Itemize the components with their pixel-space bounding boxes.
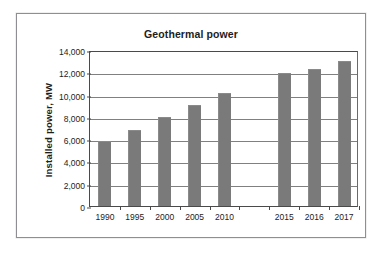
x-tick-mark: [150, 206, 151, 210]
y-tick-mark: [87, 185, 91, 186]
y-tick-mark: [87, 74, 91, 75]
y-tick-label: 12,000: [59, 69, 85, 79]
x-tick-mark: [299, 206, 300, 210]
bar: [278, 73, 291, 206]
y-tick-mark: [87, 96, 91, 97]
x-tick-label: 2000: [155, 212, 174, 222]
y-tick-label: 6,000: [64, 136, 85, 146]
x-tick-label: 1990: [95, 212, 114, 222]
plot-area: 02,0004,0006,0008,00010,00012,00014,000 …: [89, 51, 358, 207]
y-axis-title: Installed power, MW: [43, 60, 57, 200]
x-tick-mark: [210, 206, 211, 210]
y-tick-mark: [87, 208, 91, 209]
x-tick-mark: [180, 206, 181, 210]
y-tick-label: 2,000: [64, 181, 85, 191]
bar: [338, 61, 351, 206]
y-tick-label: 14,000: [59, 47, 85, 57]
x-tick-label: 2005: [185, 212, 204, 222]
x-tick-label: 2016: [305, 212, 324, 222]
chart-title: Geothermal power: [17, 28, 365, 40]
bar: [128, 130, 141, 206]
y-tick-label: 4,000: [64, 158, 85, 168]
x-tick-label: 2010: [215, 212, 234, 222]
x-tick-mark: [329, 206, 330, 210]
y-tick-label: 0: [80, 203, 85, 213]
x-tick-label: 2017: [335, 212, 354, 222]
x-tick-mark: [239, 206, 240, 210]
x-tick-mark: [359, 206, 360, 210]
scanned-page-frame: Geothermal power Installed power, MW 02,…: [16, 13, 366, 238]
x-tick-mark: [269, 206, 270, 210]
y-tick-mark: [87, 118, 91, 119]
y-tick-mark: [87, 163, 91, 164]
x-tick-mark: [120, 206, 121, 210]
bar: [218, 93, 231, 206]
x-tick-label: 1995: [125, 212, 144, 222]
y-tick-mark: [87, 52, 91, 53]
bar: [308, 69, 321, 206]
bar: [98, 141, 111, 206]
y-tick-label: 8,000: [64, 114, 85, 124]
y-tick-mark: [87, 141, 91, 142]
bar: [158, 117, 171, 206]
x-tick-label: 2015: [275, 212, 294, 222]
bar: [188, 105, 201, 206]
y-tick-label: 10,000: [59, 92, 85, 102]
